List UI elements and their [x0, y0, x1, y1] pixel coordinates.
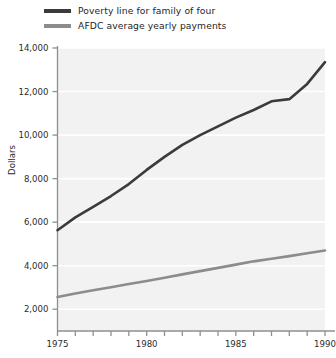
x-tick-label: 1975 [47, 339, 69, 349]
y-tick-label: 2,000 [24, 304, 49, 314]
y-tick-label: 10,000 [18, 130, 48, 140]
x-tick-label: 1985 [225, 339, 247, 349]
y-axis-ticks-group: 2,0004,0006,0008,00010,00012,00014,000 [18, 43, 57, 314]
y-tick-label: 8,000 [24, 174, 49, 184]
x-axis-ticks-group: 1975198019851990 [47, 331, 336, 349]
x-tick-label: 1980 [136, 339, 158, 349]
chart-plot-area: 2,0004,0006,0008,00010,00012,00014,000 1… [0, 0, 336, 358]
y-tick-label: 14,000 [18, 43, 48, 53]
y-tick-label: 6,000 [24, 217, 49, 227]
x-tick-label: 1990 [314, 339, 336, 349]
y-tick-label: 12,000 [18, 87, 48, 97]
chart-figure: Poverty line for family of four AFDC ave… [0, 0, 336, 358]
y-tick-label: 4,000 [24, 261, 49, 271]
